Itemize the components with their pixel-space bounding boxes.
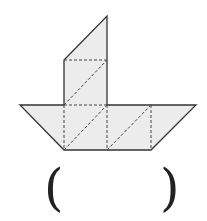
answer-blank[interactable] — [62, 170, 158, 210]
answer-paren-open: ( — [44, 160, 64, 216]
answer-paren-close: ) — [160, 160, 180, 216]
hull-shape — [20, 105, 196, 150]
